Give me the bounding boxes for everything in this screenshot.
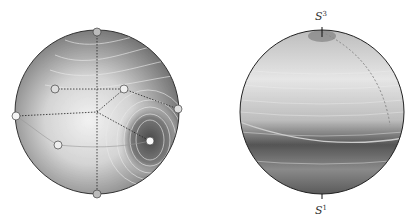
critical-point [12, 112, 20, 120]
critical-point [54, 141, 62, 149]
figure: S3 S1 [0, 0, 419, 221]
critical-point [174, 105, 182, 113]
critical-point [93, 190, 101, 198]
bottom-label: S1 [315, 204, 327, 217]
top-label: S3 [315, 10, 327, 23]
critical-point [120, 85, 128, 93]
critical-point [146, 137, 154, 145]
critical-point [93, 28, 101, 36]
critical-point [51, 85, 59, 93]
shaded-sphere: S3 S1 [240, 10, 404, 217]
contour-disk [12, 28, 190, 198]
